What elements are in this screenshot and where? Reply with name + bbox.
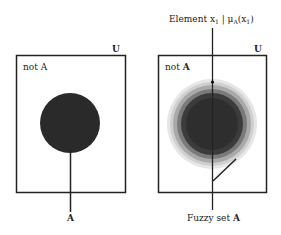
- right-complement-prefix: not: [165, 62, 183, 72]
- right-universe-label: U: [254, 45, 262, 54]
- crisp-set-label: A: [67, 214, 74, 223]
- element-label-mu: | μ: [219, 14, 234, 24]
- diagram-canvas: [0, 0, 281, 235]
- element-label-prefix: Element x: [169, 14, 215, 24]
- fuzzy-set-label: Fuzzy set A: [187, 214, 240, 223]
- left-complement-set: A: [41, 62, 48, 72]
- right-complement-label: not A: [165, 63, 190, 72]
- left-universe-label: U: [112, 45, 120, 54]
- element-x1-dot: [211, 80, 214, 83]
- fuzzy-set-label-set: A: [233, 213, 240, 223]
- crisp-set-a-circle: [40, 93, 100, 153]
- element-label-close: ): [250, 14, 254, 24]
- fuzzy-set-label-prefix: Fuzzy set: [187, 213, 233, 223]
- left-complement-prefix: not: [23, 62, 41, 72]
- left-complement-label: not A: [23, 63, 47, 72]
- element-label: Element x1 | μA(x1): [169, 15, 254, 25]
- right-complement-set: A: [183, 62, 190, 72]
